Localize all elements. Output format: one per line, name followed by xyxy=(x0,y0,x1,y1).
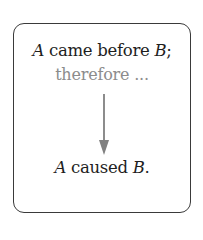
fallacy-box: A came before B; therefore ... A caused … xyxy=(13,23,191,213)
premise-subject: A xyxy=(32,41,44,60)
conclusion-object: B xyxy=(133,158,145,177)
conclusion-punct: . xyxy=(145,158,150,177)
premise-verb: came before xyxy=(44,41,154,60)
premise-text: A came before B; xyxy=(14,41,190,60)
conclusion-text: A caused B. xyxy=(14,158,190,177)
conclusion-verb: caused xyxy=(66,158,133,177)
conclusion-subject: A xyxy=(55,158,67,177)
premise-object: B xyxy=(154,41,166,60)
down-arrow-icon xyxy=(98,94,110,156)
connector-text: therefore ... xyxy=(14,65,190,84)
premise-punct: ; xyxy=(166,41,171,60)
